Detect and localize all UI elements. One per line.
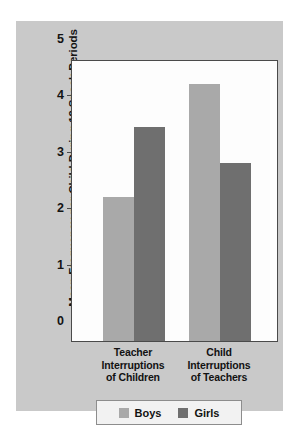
legend-label: Boys [135,407,162,419]
y-axis-tick-label: 5 [16,33,64,45]
bar-boys-group-2 [189,84,220,341]
legend-swatch-icon [119,408,129,418]
bar-girls-group-2 [220,163,251,341]
x-axis-label-line: of Teachers [161,371,277,384]
y-axis-tick-label: 4 [16,89,64,101]
chart-panel: Mean Frequency per Child During 19 Snack… [16,21,283,411]
legend-swatch-icon [178,408,188,418]
y-axis-tick-label: 0 [16,315,64,327]
bar-boys-group-1 [103,197,134,341]
x-axis-label-line: Child [161,346,277,359]
chart-figure: Mean Frequency per Child During 19 Snack… [0,0,306,433]
chart-legend: BoysGirls [96,400,242,425]
plot-area [71,60,278,342]
x-axis-label-2: ChildInterruptionsof Teachers [161,346,277,384]
y-axis-tick-label: 1 [16,259,64,271]
legend-label: Girls [194,407,219,419]
legend-entry-boys: Boys [119,407,162,419]
legend-entry-girls: Girls [178,407,219,419]
bar-girls-group-1 [134,127,165,341]
y-axis-tick-label: 3 [16,146,64,158]
x-axis-label-line: Interruptions [161,359,277,372]
y-axis-tick-label: 2 [16,202,64,214]
